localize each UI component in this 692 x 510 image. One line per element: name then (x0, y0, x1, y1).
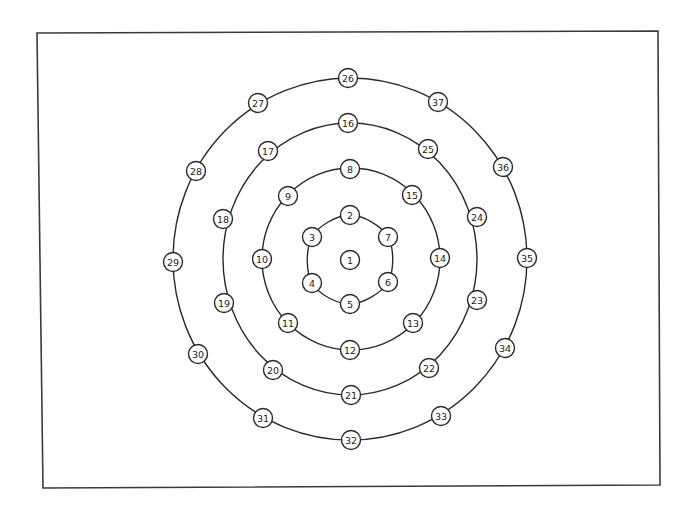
node-label: 1 (347, 255, 353, 266)
node-29: 29 (164, 253, 183, 272)
diagram-canvas: 1234567891011121314151617181920212223242… (0, 0, 692, 510)
node-30: 30 (189, 345, 208, 364)
node-label: 11 (282, 318, 294, 329)
node-5: 5 (341, 295, 360, 314)
node-label: 34 (499, 343, 511, 354)
node-label: 6 (385, 277, 391, 288)
node-17: 17 (259, 142, 278, 161)
node-3: 3 (303, 228, 322, 247)
node-14: 14 (431, 249, 450, 268)
node-15: 15 (403, 186, 422, 205)
node-6: 6 (379, 273, 398, 292)
node-label: 9 (285, 191, 291, 202)
node-label: 4 (309, 278, 315, 289)
node-label: 8 (347, 164, 353, 175)
node-label: 5 (347, 299, 353, 310)
node-33: 33 (432, 407, 451, 426)
node-label: 23 (471, 295, 483, 306)
node-20: 20 (264, 361, 283, 380)
node-label: 31 (257, 413, 269, 424)
node-label: 3 (309, 232, 315, 243)
node-1: 1 (341, 251, 360, 270)
node-32: 32 (342, 431, 361, 450)
node-13: 13 (404, 314, 423, 333)
node-label: 7 (385, 232, 391, 243)
node-label: 36 (497, 162, 509, 173)
node-24: 24 (468, 208, 487, 227)
node-23: 23 (468, 291, 487, 310)
node-label: 14 (434, 253, 446, 264)
node-label: 22 (423, 363, 435, 374)
node-label: 10 (256, 254, 268, 265)
node-label: 25 (422, 144, 434, 155)
node-26: 26 (339, 69, 358, 88)
node-label: 19 (218, 298, 230, 309)
node-21: 21 (342, 386, 361, 405)
node-25: 25 (419, 140, 438, 159)
node-36: 36 (494, 158, 513, 177)
node-4: 4 (303, 274, 322, 293)
node-label: 30 (192, 349, 204, 360)
node-27: 27 (249, 94, 268, 113)
node-28: 28 (187, 162, 206, 181)
node-label: 20 (267, 365, 279, 376)
node-37: 37 (429, 93, 448, 112)
node-label: 16 (342, 118, 354, 129)
node-label: 29 (167, 257, 179, 268)
node-label: 37 (432, 97, 444, 108)
node-22: 22 (420, 359, 439, 378)
node-label: 13 (407, 318, 419, 329)
node-label: 26 (342, 73, 354, 84)
node-11: 11 (279, 314, 298, 333)
node-9: 9 (279, 187, 298, 206)
node-10: 10 (253, 250, 272, 269)
node-label: 18 (217, 214, 229, 225)
node-34: 34 (496, 339, 515, 358)
node-31: 31 (254, 409, 273, 428)
node-label: 12 (344, 345, 356, 356)
node-35: 35 (518, 249, 537, 268)
node-label: 17 (262, 146, 274, 157)
node-8: 8 (341, 160, 360, 179)
node-label: 28 (190, 166, 202, 177)
node-19: 19 (215, 294, 234, 313)
node-label: 27 (252, 98, 264, 109)
node-label: 32 (345, 435, 357, 446)
node-label: 2 (347, 210, 353, 221)
node-label: 21 (345, 390, 357, 401)
node-label: 33 (435, 411, 447, 422)
node-16: 16 (339, 114, 358, 133)
node-12: 12 (341, 341, 360, 360)
node-2: 2 (341, 206, 360, 225)
node-label: 35 (521, 253, 533, 264)
node-label: 24 (471, 212, 483, 223)
nodes-group: 1234567891011121314151617181920212223242… (164, 69, 537, 450)
node-label: 15 (406, 190, 418, 201)
node-7: 7 (379, 228, 398, 247)
node-18: 18 (214, 210, 233, 229)
